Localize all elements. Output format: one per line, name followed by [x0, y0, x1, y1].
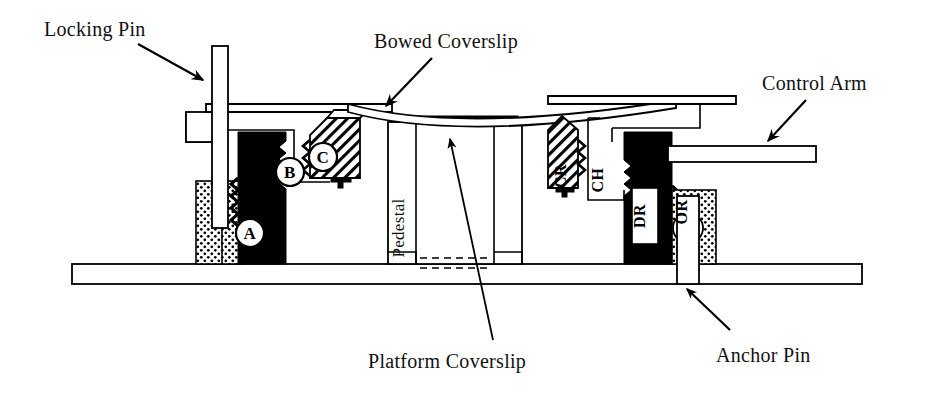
part-code-cr: CR: [552, 164, 569, 188]
figure-root: A B C CR CH DR OR Pedestal Locking Pin B…: [0, 0, 936, 394]
locking-pin-shaft[interactable]: [212, 46, 228, 228]
callout-label-bowed-coverslip: Bowed Coverslip: [374, 30, 518, 53]
leader-locking-pin: [138, 44, 203, 80]
badge-b-label: B: [284, 163, 296, 182]
part-code-ch: CH: [589, 167, 606, 192]
badge-a-label: A: [244, 224, 257, 243]
callout-label-anchor-pin: Anchor Pin: [716, 344, 811, 366]
upper-right-plate: [548, 96, 736, 104]
wedge-cr-foot-stem: [562, 188, 567, 197]
inline-label-pedestal: Pedestal: [389, 198, 408, 257]
badge-c-label: C: [317, 148, 330, 167]
leader-control-arm: [768, 100, 806, 141]
badge-a: A: [236, 219, 264, 247]
callout-label-control-arm: Control Arm: [762, 72, 867, 94]
callout-label-locking-pin: Locking Pin: [44, 18, 146, 41]
leader-anchor-pin: [687, 289, 730, 330]
pedestal-assembly: [388, 116, 522, 268]
leader-bowed-coverslip: [386, 58, 432, 106]
control-arm[interactable]: [668, 146, 816, 162]
device-cross-section-diagram: A B C CR CH DR OR Pedestal Locking Pin B…: [0, 0, 936, 394]
part-code-or: OR: [673, 200, 690, 225]
wedge-c-foot-stem: [338, 178, 343, 188]
callout-label-platform-coverslip: Platform Coverslip: [368, 350, 526, 373]
base-plate: [72, 264, 862, 284]
part-code-dr: DR: [631, 204, 648, 228]
badge-c: C: [309, 143, 337, 171]
badge-b: B: [276, 158, 304, 186]
left-assembly: [186, 46, 392, 264]
pedestal-body: [388, 122, 522, 264]
spring-edge-cr: [578, 140, 585, 176]
